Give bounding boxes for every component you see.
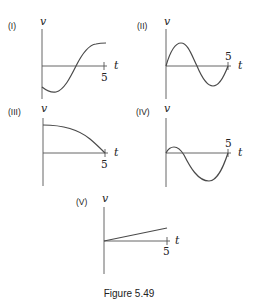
panel-iv: (IV) v 5 t bbox=[136, 102, 243, 187]
panel-ii: (II) v 5 t bbox=[137, 15, 243, 99]
tick-label-5: 5 bbox=[163, 245, 170, 257]
v-axis-label: v bbox=[102, 192, 109, 205]
figure-caption: Figure 5.49 bbox=[104, 288, 155, 299]
velocity-curve-iv bbox=[166, 147, 228, 181]
v-axis-label: v bbox=[164, 15, 171, 28]
velocity-line-v bbox=[104, 228, 167, 241]
velocity-curve-ii bbox=[166, 43, 228, 86]
tick-label-5: 5 bbox=[225, 137, 232, 149]
panel-label-i: (I) bbox=[8, 21, 16, 31]
t-axis-label: t bbox=[238, 146, 243, 159]
panel-label-ii: (II) bbox=[137, 21, 148, 31]
t-axis-label: t bbox=[114, 146, 119, 159]
figure-5-49: (I) v 5 t (II) v 5 t (III) v 5 t (IV) v bbox=[0, 0, 258, 306]
panel-i: (I) v 5 t bbox=[8, 15, 119, 99]
panel-label-iv: (IV) bbox=[136, 107, 150, 117]
tick-label-5: 5 bbox=[225, 50, 232, 62]
v-axis-label: v bbox=[164, 102, 171, 115]
panel-v: (V) v 5 t bbox=[76, 192, 180, 274]
panel-iii: (III) v 5 t bbox=[8, 102, 119, 186]
v-axis-label: v bbox=[40, 15, 47, 28]
t-axis-label: t bbox=[238, 59, 243, 72]
v-axis-label: v bbox=[41, 102, 48, 115]
t-axis-label: t bbox=[175, 234, 180, 247]
t-axis-label: t bbox=[114, 59, 119, 72]
tick-label-5: 5 bbox=[101, 158, 108, 170]
panel-label-v: (V) bbox=[76, 197, 88, 207]
tick-label-5: 5 bbox=[101, 71, 108, 83]
velocity-curve-iii bbox=[43, 125, 105, 153]
panel-label-iii: (III) bbox=[8, 107, 21, 117]
velocity-curve-i bbox=[42, 43, 106, 92]
